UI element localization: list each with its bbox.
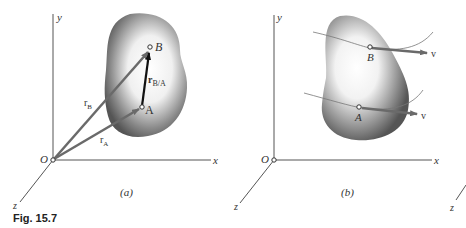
panel-a: y x z O B A rB rA rB/A (a) Fig. 15.7 bbox=[12, 11, 218, 224]
vector-rB-label: rB bbox=[84, 97, 92, 111]
point-B-a bbox=[148, 45, 152, 49]
point-B-label-a: B bbox=[155, 40, 163, 54]
point-A-label-b: A bbox=[354, 111, 362, 123]
velocity-label-A: v bbox=[421, 110, 426, 121]
figure-caption: Fig. 15.7 bbox=[13, 212, 57, 224]
rigid-body-figure: y x z O B A rB rA rB/A (a) Fig. 15.7 bbox=[0, 0, 466, 228]
y-axis-label-b: y bbox=[276, 11, 282, 23]
point-A-b bbox=[357, 105, 361, 109]
point-B-label-b: B bbox=[367, 51, 374, 63]
panel-label-a: (a) bbox=[120, 186, 133, 199]
x-axis-label-b: x bbox=[433, 154, 439, 166]
velocity-label-B: v bbox=[431, 48, 436, 59]
z-axis-label-a: z bbox=[12, 200, 17, 211]
origin-label-a: O bbox=[40, 153, 48, 165]
z-axis-extra bbox=[456, 185, 466, 200]
rigid-body-b bbox=[322, 15, 409, 140]
origin-point-a bbox=[51, 158, 55, 162]
z-axis-b bbox=[240, 160, 274, 203]
point-A-label-a: A bbox=[145, 103, 154, 117]
vector-rA-label: rA bbox=[100, 134, 108, 148]
point-B-b bbox=[368, 45, 372, 49]
point-A-a bbox=[140, 105, 144, 109]
z-axis-label-extra: z bbox=[449, 202, 454, 213]
origin-point-b bbox=[272, 158, 276, 162]
panel-b: y x z z O B A v v (b) bbox=[233, 11, 466, 213]
z-axis-label-b: z bbox=[233, 201, 238, 212]
x-axis-label-a: x bbox=[212, 154, 218, 166]
y-axis-label-a: y bbox=[56, 11, 62, 23]
origin-label-b: O bbox=[261, 153, 269, 165]
z-axis-a bbox=[20, 160, 53, 202]
panel-label-b: (b) bbox=[341, 186, 354, 199]
